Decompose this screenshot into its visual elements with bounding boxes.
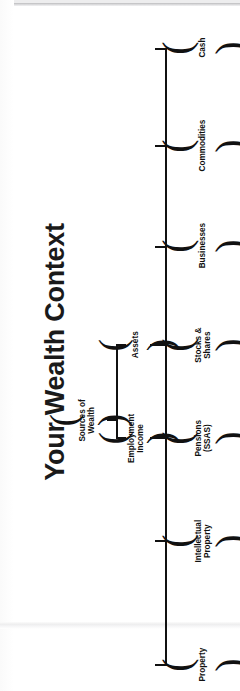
leaf-intellectual-property[interactable]: ( Intellectual Property ) <box>172 510 234 572</box>
paren-left-icon: ( <box>157 41 197 54</box>
paren-left-icon: ( <box>157 534 197 547</box>
paren-left-icon: ( <box>157 239 197 252</box>
connector-income-to-spine <box>150 437 167 439</box>
paren-left-icon: ( <box>157 658 197 671</box>
paren-left-icon: ( <box>45 414 82 426</box>
paren-right-icon: ) <box>209 239 240 252</box>
paren-right-icon: ) <box>209 534 240 547</box>
connector-assets-to-spine <box>150 344 167 346</box>
wealth-sources-tree: ( Cash ) ( Commodities ) ( Businesses ) … <box>0 0 240 691</box>
leaf-businesses[interactable]: ( Businesses ) <box>172 215 234 277</box>
connector-to-employment-income <box>116 437 126 439</box>
leaf-property[interactable]: ( Property ) <box>172 634 234 691</box>
leaf-commodities[interactable]: ( Commodities ) <box>172 115 234 177</box>
paren-right-icon: ) <box>209 41 240 54</box>
leaf-stocks-shares[interactable]: ( Stocks & Shares ) <box>172 314 234 376</box>
paren-right-icon: ) <box>209 431 240 444</box>
paren-right-icon: ) <box>209 658 240 671</box>
paren-right-icon: ) <box>209 338 240 351</box>
paren-right-icon: ) <box>209 139 240 152</box>
leaf-pensions-ssas[interactable]: ( Pensions (SSAS) ) <box>172 407 234 469</box>
leaf-cash[interactable]: ( Cash ) <box>172 17 234 79</box>
paren-left-icon: ( <box>157 139 197 152</box>
connector-to-assets <box>116 344 126 346</box>
connector-branch-bus <box>116 344 118 439</box>
